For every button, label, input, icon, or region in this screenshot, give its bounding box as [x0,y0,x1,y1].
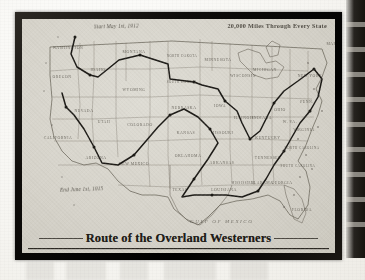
route-polyline [62,37,322,197]
route-waypoint [211,194,214,197]
gutter-notch [346,72,365,77]
route-waypoint [209,128,212,131]
map-title-bar: Route of the Overland Westerners [22,227,335,249]
route-waypoint [169,114,172,117]
caption-subtitle: 20,000 Miles Through Every State [227,22,327,29]
route-waypoint [309,110,312,113]
map-sheet: WASHINGTONOREGONCALIFORNIANEVADAIDAHOMON… [22,19,335,253]
route-waypoint [93,146,96,149]
route-waypoint [193,81,196,84]
route-waypoint [65,106,68,109]
map-title: Route of the Overland Westerners [86,231,272,246]
route-waypoint [193,178,196,181]
route-waypoint [74,36,77,39]
route-waypoint [224,100,227,103]
route-waypoint [133,154,136,157]
gulf-of-mexico-label: GULF OF MEXICO [190,219,254,224]
gutter-notch [346,47,365,52]
gutter-notch [346,147,365,152]
route-waypoint [313,68,316,71]
gutter-notch [346,197,365,202]
gutter-notch [346,222,365,227]
route-waypoint-markers [65,36,316,197]
page-bleed-through [20,262,320,280]
route-layer [22,19,335,253]
route-waypoint [283,150,286,153]
gutter-notch [346,172,365,177]
route-waypoint [273,102,276,105]
caption-start-date: Start May 1st, 1912 [94,23,139,30]
route-waypoint [139,54,142,57]
scan-gutter-shadow [346,0,365,258]
title-rule-left [39,238,83,239]
route-waypoint [249,138,252,141]
gutter-notch [346,22,365,27]
gutter-notch [346,97,365,102]
gutter-notch [346,122,365,127]
route-waypoint [257,190,260,193]
title-rule-right [274,238,318,239]
route-waypoint [89,74,92,77]
title-underline-rule [28,248,329,250]
map-frame-border: WASHINGTONOREGONCALIFORNIANEVADAIDAHOMON… [15,12,342,260]
